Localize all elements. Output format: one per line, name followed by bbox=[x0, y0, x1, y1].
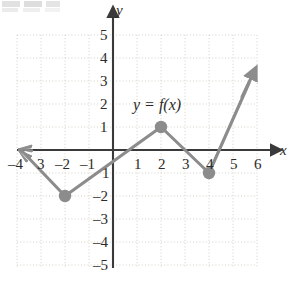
function-label: y = f(x) bbox=[133, 97, 181, 113]
x-tick-label--3: 3 bbox=[37, 157, 45, 172]
y-tick-label--4: –4 bbox=[93, 235, 108, 250]
data-point-marker bbox=[59, 190, 71, 202]
y-tick-label-1: 1 bbox=[100, 120, 108, 135]
function-graph-figure: –4 3 –2 –1 1 2 3 4 5 6 5 4 3 2 1 1 –2 –3… bbox=[0, 0, 298, 282]
grid-lines bbox=[17, 35, 257, 268]
x-tick-label-5: 5 bbox=[230, 157, 238, 172]
y-tick-label--2: –2 bbox=[93, 189, 108, 204]
y-tick-label-2: 2 bbox=[100, 97, 108, 112]
graph-canvas bbox=[0, 0, 298, 282]
y-axis-title: y bbox=[116, 3, 123, 18]
axes bbox=[17, 16, 272, 268]
y-tick-label-3: 3 bbox=[100, 74, 108, 89]
data-point-marker bbox=[155, 121, 167, 133]
y-tick-label-4: 4 bbox=[100, 51, 108, 66]
x-tick-label--2: –2 bbox=[55, 157, 70, 172]
y-tick-label--1: 1 bbox=[102, 166, 110, 181]
function-curve bbox=[18, 76, 252, 202]
y-tick-label--3: –3 bbox=[93, 212, 108, 227]
x-tick-label-3: 3 bbox=[182, 157, 190, 172]
x-tick-label-1: 1 bbox=[134, 157, 142, 172]
y-tick-label--5: –5 bbox=[93, 258, 108, 273]
x-tick-label--1: –1 bbox=[80, 157, 95, 172]
x-tick-label--4: –4 bbox=[8, 157, 23, 172]
x-tick-label-2: 2 bbox=[158, 157, 166, 172]
x-tick-label-4: 4 bbox=[206, 157, 214, 172]
y-tick-label-5: 5 bbox=[100, 28, 108, 43]
x-tick-label-6: 6 bbox=[254, 157, 262, 172]
x-axis-title: x bbox=[280, 143, 287, 158]
